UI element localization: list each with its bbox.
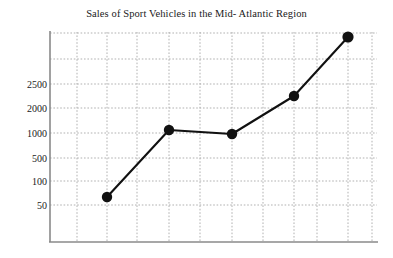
- data-point: [164, 125, 174, 135]
- data-point: [342, 31, 353, 42]
- data-point: [289, 91, 299, 101]
- y-tick-label: 50: [3, 200, 47, 211]
- data-point: [227, 129, 237, 139]
- y-tick-label: 500: [3, 153, 47, 164]
- y-tick-label: 1000: [3, 128, 47, 139]
- line-chart-plot: [0, 0, 393, 258]
- data-point-markers: [102, 31, 354, 202]
- data-line-sales: [107, 37, 348, 197]
- y-tick-label: 2000: [3, 103, 47, 114]
- chart-screenshot: Sales of Sport Vehicles in the Mid- Atla…: [0, 0, 393, 258]
- data-point: [102, 192, 112, 202]
- y-axis-tick-labels: 2500 2000 1000 500 100 50: [0, 0, 47, 258]
- y-tick-label: 2500: [3, 79, 47, 90]
- y-tick-label: 100: [3, 176, 47, 187]
- vertical-gridlines: [77, 32, 372, 241]
